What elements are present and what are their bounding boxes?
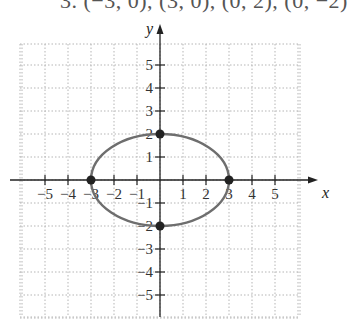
y-tick-label: 5 xyxy=(146,57,154,73)
x-tick-label: 5 xyxy=(271,186,279,202)
point-marker xyxy=(225,176,234,185)
x-tick-label: 2 xyxy=(202,186,210,202)
y-tick-label: −3 xyxy=(137,241,153,257)
x-axis-label: x xyxy=(321,184,329,201)
point-marker xyxy=(156,222,165,231)
y-tick-label: −5 xyxy=(137,287,153,303)
y-tick-label: −1 xyxy=(137,195,153,211)
point-marker xyxy=(87,176,96,185)
y-tick-label: 3 xyxy=(146,103,154,119)
y-tick-label: 4 xyxy=(146,80,154,96)
x-axis-arrow-icon xyxy=(308,177,318,184)
x-tick-label: 1 xyxy=(179,186,187,202)
y-tick-label: 1 xyxy=(146,149,154,165)
axes: xy xyxy=(10,20,329,317)
y-axis-label: y xyxy=(144,20,154,38)
point-marker xyxy=(156,130,165,139)
x-tick-label: −5 xyxy=(37,186,53,202)
x-tick-label: −2 xyxy=(106,186,122,202)
x-tick-label: 4 xyxy=(248,186,256,202)
x-tick-label: −4 xyxy=(60,186,76,202)
y-axis-arrow-icon xyxy=(157,24,164,34)
y-tick-label: −4 xyxy=(137,264,153,280)
